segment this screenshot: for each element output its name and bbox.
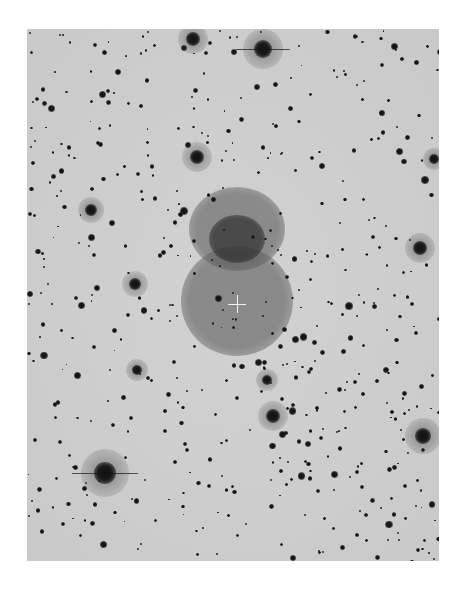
star: [52, 506, 54, 508]
star: [51, 174, 56, 179]
star: [232, 326, 235, 329]
star: [354, 406, 357, 409]
star: [400, 429, 402, 431]
star: [74, 372, 81, 379]
star: [280, 543, 284, 547]
star: [291, 297, 293, 299]
star: [344, 73, 347, 76]
star: [54, 416, 57, 419]
star: [314, 253, 316, 255]
star: [343, 410, 346, 413]
star: [392, 465, 397, 470]
star: [223, 229, 225, 231]
star: [345, 302, 353, 310]
star: [397, 532, 399, 534]
star: [171, 304, 173, 306]
star: [124, 521, 126, 523]
star: [290, 478, 293, 481]
star: [343, 70, 345, 72]
star: [169, 244, 173, 248]
star: [203, 72, 206, 75]
star: [229, 36, 232, 39]
star: [225, 488, 228, 491]
star: [134, 498, 140, 504]
star: [219, 265, 221, 267]
star: [433, 558, 435, 560]
star: [136, 172, 140, 176]
star: [154, 519, 157, 522]
star: [390, 417, 392, 419]
star: [398, 315, 402, 319]
star: [261, 145, 265, 149]
star: [298, 45, 300, 47]
star: [336, 431, 338, 433]
star: [176, 190, 178, 192]
star: [292, 256, 298, 262]
star: [319, 163, 325, 169]
star: [100, 541, 108, 549]
star: [410, 560, 413, 561]
star: [322, 428, 324, 430]
star: [339, 222, 341, 224]
star: [356, 315, 358, 317]
star: [396, 126, 398, 128]
star: [387, 372, 389, 374]
star: [86, 494, 88, 496]
star: [68, 154, 71, 157]
star: [168, 499, 170, 501]
star: [364, 513, 368, 517]
star: [425, 263, 428, 266]
star: [127, 102, 130, 105]
star: [182, 492, 185, 495]
star: [336, 76, 338, 78]
star: [129, 416, 133, 420]
star: [183, 442, 187, 446]
star: [225, 439, 228, 442]
star: [239, 117, 244, 122]
star: [217, 512, 219, 514]
star: [91, 294, 93, 296]
star: [52, 151, 54, 153]
star: [384, 450, 388, 454]
star: [361, 41, 364, 44]
star: [211, 259, 213, 261]
star: [78, 242, 80, 244]
star: [338, 430, 340, 432]
star: [189, 472, 191, 474]
star: [27, 291, 33, 297]
star: [45, 127, 47, 129]
star: [353, 34, 357, 38]
star: [101, 177, 106, 182]
star: [140, 52, 143, 55]
star: [343, 198, 346, 201]
star: [41, 322, 45, 326]
star: [414, 60, 418, 64]
star: [92, 253, 96, 257]
star: [249, 429, 251, 431]
star: [30, 127, 33, 130]
star: [62, 369, 64, 371]
star: [419, 384, 424, 389]
star: [88, 245, 90, 247]
star: [178, 203, 180, 205]
star: [437, 317, 439, 321]
star: [262, 360, 267, 365]
star: [39, 336, 41, 338]
star: [232, 490, 236, 494]
star: [131, 498, 133, 500]
star: [290, 555, 296, 561]
star: [112, 328, 117, 333]
star: [257, 171, 260, 174]
star: [306, 462, 310, 466]
star: [71, 337, 73, 339]
star: [93, 502, 97, 506]
star: [264, 238, 266, 240]
star: [282, 364, 284, 366]
bright-star: [266, 409, 280, 423]
star: [395, 361, 398, 364]
star: [286, 363, 288, 365]
star: [116, 173, 119, 176]
star: [272, 461, 274, 463]
star: [90, 521, 95, 526]
star: [41, 87, 46, 92]
